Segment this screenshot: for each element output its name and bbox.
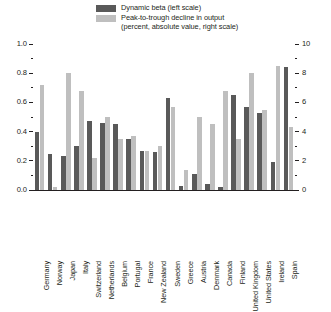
axis-tick-label: 0.6 bbox=[17, 98, 27, 106]
x-axis-label-text: Denmark bbox=[213, 261, 220, 290]
axis-tick-minor bbox=[295, 146, 297, 147]
bar-dynamic-beta bbox=[35, 132, 40, 190]
bar-group bbox=[282, 44, 295, 190]
x-axis-label-text: United Kingdom bbox=[252, 261, 259, 312]
bar-peak-to-trough bbox=[276, 66, 281, 190]
axis-tick-label: 2 bbox=[302, 157, 306, 165]
legend-item-dynamic-beta: Dynamic beta (left scale) bbox=[96, 3, 326, 12]
bar-peak-to-trough bbox=[105, 117, 110, 190]
plot-area bbox=[33, 44, 295, 190]
x-axis-label: Finland bbox=[239, 261, 246, 284]
x-axis-label: Germany bbox=[43, 261, 50, 290]
bar-peak-to-trough bbox=[289, 127, 294, 190]
axis-tick-label: 8 bbox=[302, 69, 306, 77]
x-axis-label-text: Austria bbox=[200, 261, 207, 283]
x-axis-label-text: Canada bbox=[226, 261, 233, 286]
bar-peak-to-trough bbox=[118, 139, 123, 190]
x-axis-category-labels: GermanyNorwayJapanItalySwitzerlandNether… bbox=[33, 191, 295, 264]
bar-dynamic-beta bbox=[166, 98, 171, 190]
bar-group bbox=[230, 44, 243, 190]
bar-dynamic-beta bbox=[231, 95, 236, 190]
axis-tick bbox=[295, 102, 299, 103]
legend-label: Peak-to-trough decline in output bbox=[121, 13, 224, 22]
axis-tick bbox=[295, 190, 299, 191]
y-axis-left: 0.00.20.40.60.81.0 bbox=[0, 0, 33, 264]
bar-group bbox=[59, 44, 72, 190]
axis-tick bbox=[295, 131, 299, 132]
x-axis-label-text: Switzerland bbox=[95, 261, 102, 298]
bar-group bbox=[46, 44, 59, 190]
x-axis-label: Portugal bbox=[134, 261, 141, 287]
axis-tick-label: 0.4 bbox=[17, 128, 27, 136]
bar-dynamic-beta bbox=[140, 151, 145, 190]
bar-dynamic-beta bbox=[244, 107, 249, 190]
x-axis-label: Japan bbox=[69, 261, 76, 280]
axis-tick bbox=[295, 44, 299, 45]
legend-swatch-icon bbox=[96, 5, 116, 12]
bar-group bbox=[138, 44, 151, 190]
bar-dynamic-beta bbox=[271, 162, 276, 190]
legend-label-group: Peak-to-trough decline in output (percen… bbox=[121, 13, 238, 31]
x-axis-label-text: Greece bbox=[187, 261, 194, 284]
axis-tick-minor bbox=[295, 58, 297, 59]
bar-dynamic-beta bbox=[87, 121, 92, 190]
bar-dynamic-beta bbox=[113, 124, 118, 190]
x-axis-label-text: Spain bbox=[291, 261, 298, 279]
x-axis-label-text: Netherlands bbox=[108, 261, 115, 299]
x-axis-label-text: New Zealand bbox=[160, 261, 167, 303]
bar-group bbox=[256, 44, 269, 190]
bar-peak-to-trough bbox=[210, 124, 215, 190]
x-axis-label: Austria bbox=[200, 261, 207, 283]
bar-group bbox=[243, 44, 256, 190]
x-axis-label-text: Finland bbox=[239, 261, 246, 284]
legend-sublabel: (percent, absolute value, right scale) bbox=[121, 22, 238, 31]
x-axis-label: Canada bbox=[226, 261, 233, 286]
axis-tick-minor bbox=[295, 175, 297, 176]
x-axis-label-text: Belgium bbox=[121, 261, 128, 287]
y-axis-right: 0246810 bbox=[295, 0, 331, 264]
bar-group bbox=[99, 44, 112, 190]
bar-dynamic-beta bbox=[153, 152, 158, 190]
x-axis-label-text: Italy bbox=[82, 261, 89, 274]
bar-group bbox=[72, 44, 85, 190]
legend-label: Dynamic beta (left scale) bbox=[121, 3, 201, 12]
bar-group bbox=[85, 44, 98, 190]
axis-tick-label: 0.8 bbox=[17, 69, 27, 77]
bar-peak-to-trough bbox=[236, 139, 241, 190]
bar-dynamic-beta bbox=[126, 139, 131, 190]
x-axis-label-text: Norway bbox=[56, 261, 63, 285]
x-axis-label-text: Ireland bbox=[278, 261, 285, 283]
chart-legend: Dynamic beta (left scale) Peak-to-trough… bbox=[96, 3, 326, 33]
x-axis-label: United Kingdom bbox=[252, 261, 259, 312]
x-axis-label: Denmark bbox=[213, 261, 220, 290]
bar-peak-to-trough bbox=[223, 91, 228, 190]
axis-tick-label: 0.0 bbox=[17, 186, 27, 194]
bar-dynamic-beta bbox=[48, 154, 53, 191]
bar-dynamic-beta bbox=[100, 123, 105, 190]
bar-group bbox=[151, 44, 164, 190]
x-axis-label-text: United States bbox=[265, 261, 272, 304]
bar-peak-to-trough bbox=[184, 170, 189, 190]
bar-dynamic-beta bbox=[192, 174, 197, 190]
x-axis-label: Ireland bbox=[278, 261, 285, 283]
x-axis-label: Switzerland bbox=[95, 261, 102, 298]
bar-group bbox=[216, 44, 229, 190]
bar-group bbox=[164, 44, 177, 190]
bar-group bbox=[190, 44, 203, 190]
x-axis-label: Norway bbox=[56, 261, 63, 285]
x-axis-label: New Zealand bbox=[160, 261, 167, 303]
x-axis-label: Netherlands bbox=[108, 261, 115, 299]
bar-group bbox=[203, 44, 216, 190]
x-axis-label: France bbox=[147, 261, 154, 283]
bar-peak-to-trough bbox=[79, 91, 84, 190]
legend-item-peak-to-trough: Peak-to-trough decline in output (percen… bbox=[96, 13, 326, 31]
x-axis-label: Greece bbox=[187, 261, 194, 284]
bar-peak-to-trough bbox=[131, 136, 136, 190]
x-axis-label-text: Sweden bbox=[174, 261, 181, 287]
bar-group bbox=[112, 44, 125, 190]
axis-tick-minor bbox=[295, 117, 297, 118]
axis-tick bbox=[295, 73, 299, 74]
bar-group bbox=[125, 44, 138, 190]
bar-peak-to-trough bbox=[40, 85, 45, 190]
